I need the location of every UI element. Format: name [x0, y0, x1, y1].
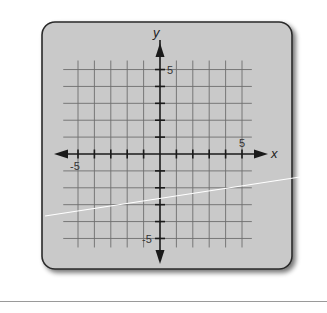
grid-panel: [42, 22, 292, 269]
coordinate-plane-figure: y x 5 -5 5 -5: [0, 0, 327, 313]
x-tick-label-neg: -5: [70, 160, 80, 172]
x-tick-label-pos: 5: [239, 137, 245, 149]
x-axis-label: x: [270, 146, 278, 161]
coordinate-plane-svg: y x 5 -5 5 -5: [0, 0, 327, 313]
bottom-divider: [0, 301, 327, 302]
y-tick-label-neg: -5: [142, 233, 152, 245]
y-tick-label-pos: 5: [167, 64, 173, 76]
